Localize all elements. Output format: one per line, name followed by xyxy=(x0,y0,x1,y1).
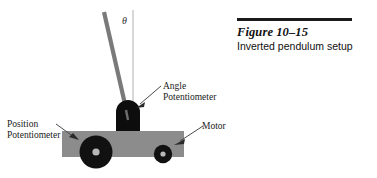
cart-wheel-large-hub xyxy=(92,148,99,155)
label-position-line1: Position xyxy=(7,119,60,130)
leader-line-angle xyxy=(140,86,161,104)
figure-subtitle: Inverted pendulum setup xyxy=(237,40,369,53)
label-angle-line1: Angle xyxy=(163,81,216,92)
caption-rule xyxy=(237,18,352,21)
label-motor: Motor xyxy=(202,121,226,132)
theta-angle-symbol: θ xyxy=(122,15,127,26)
label-position-line2: Potentiometer xyxy=(7,130,60,141)
figure-container: θ Angle Potentiometer Position Potentiom… xyxy=(0,0,377,178)
figure-number: Figure 10–15 xyxy=(237,25,369,39)
label-position-potentiometer: Position Potentiometer xyxy=(7,119,60,140)
figure-caption-block: Figure 10–15 Inverted pendulum setup xyxy=(237,18,369,53)
label-angle-potentiometer: Angle Potentiometer xyxy=(163,81,216,102)
label-angle-line2: Potentiometer xyxy=(163,92,216,103)
cart-wheel-small-hub xyxy=(160,151,165,156)
pendulum-rod xyxy=(104,12,127,113)
